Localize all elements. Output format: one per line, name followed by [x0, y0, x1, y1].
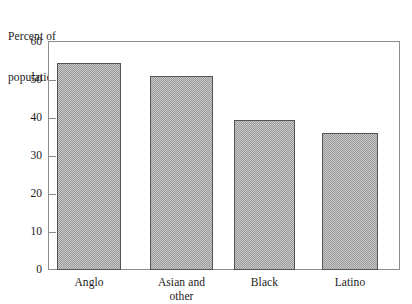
bar — [57, 63, 121, 270]
y-axis-tick-label: 10 — [12, 226, 42, 238]
y-axis-tick-label: 20 — [12, 188, 42, 200]
plot-area — [49, 42, 399, 270]
y-axis-tick-label: 0 — [12, 264, 42, 276]
y-axis-tick-label: 40 — [12, 112, 42, 124]
x-axis-label-line: Latino — [295, 276, 405, 290]
x-axis-label: Latino — [295, 276, 405, 290]
y-axis-tick-label: 50 — [12, 74, 42, 86]
bar — [234, 120, 295, 270]
bar — [150, 76, 213, 270]
bar-chart: Percent of population 0102030405060 Angl… — [0, 0, 412, 304]
y-axis-tick-label: 60 — [12, 36, 42, 48]
bar — [322, 133, 378, 270]
y-axis-tick-label: 30 — [12, 150, 42, 162]
x-axis-label-line: other — [127, 290, 237, 304]
